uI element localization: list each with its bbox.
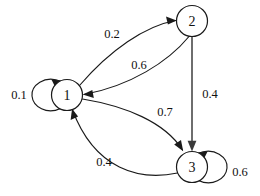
- node-2-label: 2: [189, 14, 196, 29]
- edge-2-to-3: [188, 37, 197, 152]
- edge-2-to-1-arrowhead: [83, 90, 94, 98]
- edge-label-2-to-1: 0.6: [131, 58, 147, 72]
- node-1[interactable]: 1: [52, 80, 83, 111]
- edge-2-to-3-arrowhead: [188, 141, 197, 152]
- edge-label-2-to-3: 0.4: [202, 87, 218, 101]
- edge-1-to-2-path: [80, 21, 176, 86]
- markov-chain-diagram: 1 2 3 0.1 0.2 0.6 0.4 0.7 0.4 0.6: [0, 0, 260, 196]
- node-1-label: 1: [64, 88, 71, 103]
- node-3-label: 3: [189, 160, 196, 175]
- edge-label-1-to-3: 0.7: [157, 105, 173, 119]
- diagram-canvas: 1 2 3 0.1 0.2 0.6 0.4 0.7 0.4 0.6: [0, 0, 260, 196]
- edge-label-3-self-loop: 0.6: [232, 165, 248, 179]
- edge-1-to-2-arrowhead: [166, 17, 177, 25]
- node-2[interactable]: 2: [177, 6, 208, 37]
- edge-1-to-3-arrowhead: [174, 140, 183, 151]
- edge-1-to-2: [80, 17, 177, 86]
- edge-3-to-1-arrowhead: [71, 109, 79, 120]
- node-3[interactable]: 3: [177, 152, 208, 183]
- edge-label-1-to-2: 0.2: [104, 27, 120, 41]
- edge-label-3-to-1: 0.4: [96, 155, 112, 169]
- edge-label-1-self-loop: 0.1: [11, 88, 27, 102]
- edge-3-to-1-path: [73, 110, 178, 175]
